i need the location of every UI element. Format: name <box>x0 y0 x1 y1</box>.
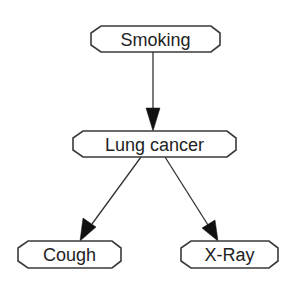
edge-lung-cancer-to-cough <box>80 157 141 241</box>
node-smoking[interactable]: Smoking <box>91 26 220 52</box>
node-cough[interactable]: Cough <box>18 241 121 268</box>
arrowhead-icon <box>146 108 160 131</box>
node-label-cough: Cough <box>43 245 96 265</box>
diagram-canvas: Smoking Lung cancer Cough X-Ray <box>0 0 289 287</box>
edge-lung-cancer-to-xray <box>165 157 218 241</box>
node-label-lung-cancer: Lung cancer <box>105 135 204 155</box>
arrowhead-icon <box>202 220 218 241</box>
node-label-smoking: Smoking <box>120 30 190 50</box>
node-label-xray: X-Ray <box>204 245 254 265</box>
edge-smoking-to-lung-cancer <box>146 52 160 131</box>
node-xray[interactable]: X-Ray <box>181 241 278 268</box>
node-lung-cancer[interactable]: Lung cancer <box>73 131 236 157</box>
